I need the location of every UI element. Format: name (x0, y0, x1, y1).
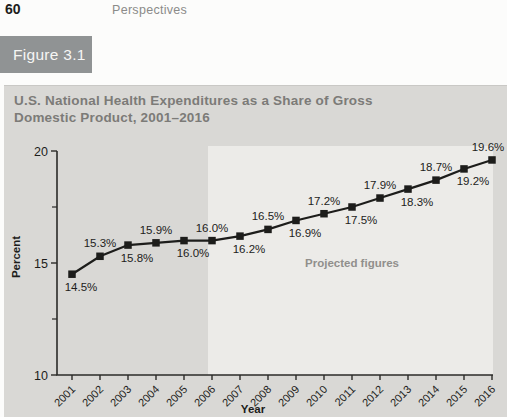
y-axis-tick-label: 15 (34, 257, 48, 271)
point-label-2001: 14.5% (65, 281, 98, 293)
x-axis-label-2001: 2001 (52, 383, 78, 409)
page-number: 60 (5, 1, 21, 17)
x-axis-label-2002: 2002 (80, 383, 106, 409)
x-axis-label-2012: 2012 (360, 383, 386, 409)
line-chart: Projected figures10152020012002200320042… (4, 86, 507, 417)
data-point-2013 (404, 185, 412, 193)
x-axis-label-2016: 2016 (472, 383, 498, 409)
point-label-2007: 16.2% (233, 243, 266, 255)
point-label-2003: 15.8% (121, 252, 154, 264)
point-label-2014: 18.7% (420, 161, 453, 173)
x-axis-label-2004: 2004 (136, 383, 162, 409)
x-axis-label-2011: 2011 (332, 383, 357, 408)
figure-panel: U.S. National Health Expenditures as a S… (4, 85, 507, 417)
point-label-2016: 19.6% (472, 141, 505, 153)
data-point-2002 (96, 253, 104, 261)
point-label-2013: 18.3% (401, 196, 434, 208)
data-point-2008 (264, 226, 272, 234)
x-axis-label-2013: 2013 (388, 383, 414, 409)
x-axis-label-2015: 2015 (444, 383, 470, 409)
running-header: Perspectives (112, 3, 187, 17)
figure-label-box: Figure 3.1 (0, 36, 92, 73)
x-axis-label-2014: 2014 (416, 383, 442, 409)
x-axis-label-2003: 2003 (108, 383, 134, 409)
x-axis-label-2010: 2010 (304, 383, 330, 409)
data-point-2012 (376, 194, 384, 202)
point-label-2006: 16.0% (196, 222, 229, 234)
point-label-2005: 16.0% (177, 247, 210, 259)
book-page: 60 Perspectives Figure 3.1 U.S. National… (0, 0, 507, 417)
x-axis-label-2005: 2005 (164, 383, 190, 409)
figure-label-text: Figure 3.1 (13, 46, 86, 64)
data-point-2014 (432, 176, 440, 184)
projected-figures-label: Projected figures (305, 257, 399, 269)
point-label-2012: 17.9% (364, 179, 397, 191)
y-axis-tick-label: 20 (34, 145, 48, 159)
data-point-2010 (320, 210, 328, 218)
x-axis-label-2006: 2006 (192, 383, 218, 409)
x-axis-label-2009: 2009 (276, 383, 302, 409)
point-label-2008: 16.5% (252, 210, 285, 222)
data-point-2016 (488, 156, 496, 164)
data-point-2009 (292, 217, 300, 225)
data-point-2001 (68, 270, 76, 278)
point-label-2015: 19.2% (457, 175, 490, 187)
data-point-2007 (236, 232, 244, 240)
data-point-2015 (460, 165, 468, 173)
data-point-2004 (152, 239, 160, 247)
point-label-2009: 16.9% (289, 227, 322, 239)
x-axis-title: Year (241, 403, 266, 415)
data-point-2006 (208, 237, 216, 245)
point-label-2011: 17.5% (345, 214, 378, 226)
y-axis-tick-label: 10 (34, 369, 48, 383)
data-point-2005 (180, 237, 188, 245)
data-point-2003 (124, 241, 132, 249)
point-label-2002: 15.3% (84, 237, 117, 249)
point-label-2010: 17.2% (308, 195, 341, 207)
y-axis-title: Percent (10, 236, 22, 278)
point-label-2004: 15.9% (140, 224, 173, 236)
data-point-2011 (348, 203, 356, 211)
